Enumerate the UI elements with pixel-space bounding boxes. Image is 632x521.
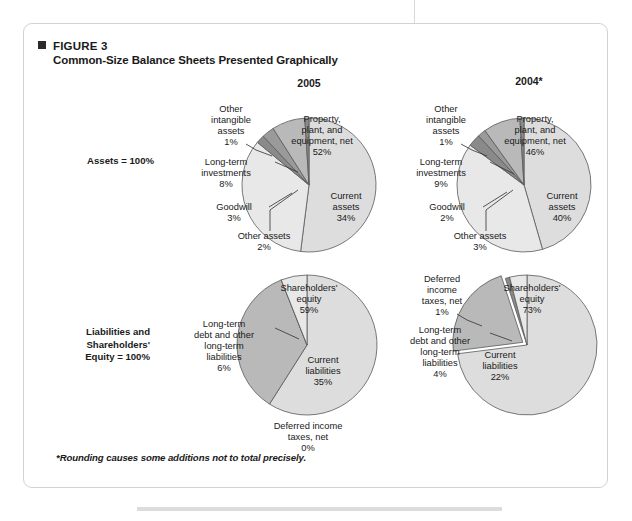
- row-label-assets: Assets = 100%: [44, 155, 154, 168]
- figure-label: FIGURE 3: [53, 40, 108, 52]
- pie-label-goodwill: Goodwill2%: [429, 202, 465, 223]
- pie-label-goodwill: Goodwill3%: [216, 202, 252, 223]
- pie-chart-liabilities-equity-2004: Shareholders'equity73%Currentliabilities…: [394, 259, 609, 444]
- pie-chart-assets-2004: Property,plant, andequipment, net46%Curr…: [394, 86, 609, 266]
- figure-title: Common-Size Balance Sheets Presented Gra…: [53, 54, 338, 66]
- row-label-liabilities-equity: Liabilities andShareholders'Equity = 100…: [40, 326, 150, 364]
- pie-label-deferred-income-taxes-net: Deferred incometaxes, net0%: [274, 421, 343, 453]
- top-divider: [414, 0, 415, 23]
- pie-label-deferred-income-taxes-net: Deferredincometaxes, net1%: [422, 274, 463, 317]
- bottom-divider: [137, 507, 502, 511]
- figure-footnote: *Rounding causes some additions not to t…: [56, 452, 306, 463]
- pie-label-other-intangible-assets: Otherintangibleassets1%: [426, 104, 466, 147]
- figure-card: FIGURE 3 Common-Size Balance Sheets Pres…: [23, 23, 608, 488]
- square-bullet-icon: [38, 41, 46, 49]
- pie-label-long-term-debt-and-other-long-term-liabilities: Long-termdebt and otherlong-termliabilit…: [410, 325, 470, 379]
- pie-chart-liabilities-equity-2005: Shareholders'equity59%Currentliabilities…: [174, 259, 389, 444]
- pie-label-other-intangible-assets: Otherintangibleassets1%: [211, 104, 251, 147]
- pie-chart-assets-2005: Property,plant, andequipment, net52%Curr…: [174, 86, 384, 266]
- figure-header: FIGURE 3: [38, 36, 108, 54]
